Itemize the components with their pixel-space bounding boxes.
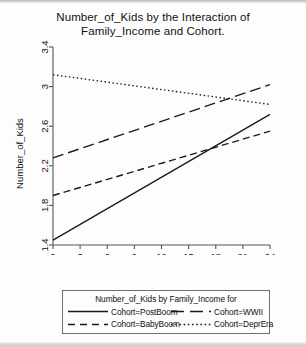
legend-label: Cohort=WWII (214, 307, 263, 317)
legend-title: Number_of_Kids by Family_Income for (63, 294, 269, 304)
y-tick-group: 1.41.82.22.633.4 (39, 40, 53, 251)
x-tick-label: 3 (77, 251, 82, 255)
x-tick-label: 6 (105, 251, 110, 255)
series-line-wwii (53, 85, 270, 158)
legend-label: Cohort=DeprEra (214, 319, 273, 329)
y-tick-label: 3 (39, 84, 50, 89)
y-axis-label: Number_of_Kids (14, 99, 25, 209)
x-tick-label: 9 (132, 251, 137, 255)
legend-row: Cohort=PostBoom Cohort=WWII (63, 307, 269, 317)
legend-key-solid-icon (68, 307, 108, 316)
y-tick-label: 2.2 (39, 159, 50, 172)
legend-key-dashed-icon (68, 320, 108, 329)
x-tick-label: 0 (50, 251, 55, 255)
x-tick-label: 18 (210, 251, 221, 255)
chart-title: Number_of_Kids by the Interaction of Fam… (0, 10, 306, 38)
series-group (53, 75, 270, 240)
y-tick-label: 3.4 (39, 40, 50, 53)
legend-item-wwii[interactable]: Cohort=WWII (166, 307, 269, 317)
chart-canvas: 1.41.82.22.633.4 03691215182124 (0, 40, 306, 255)
x-tick-label: 24 (265, 251, 276, 255)
x-tick-label: 15 (183, 251, 194, 255)
legend-item-postboom[interactable]: Cohort=PostBoom (63, 307, 166, 317)
chart-title-line-1: Number_of_Kids by the Interaction of (56, 11, 249, 23)
plot-area: Number_of_Kids 1.41.82.22.633.4 03691215… (0, 40, 306, 255)
legend-item-babyboom[interactable]: Cohort=BabyBoom (63, 319, 166, 329)
window-bottom-edge (0, 342, 306, 346)
x-tick-label: 21 (238, 251, 249, 255)
series-line-deprera (53, 75, 270, 105)
y-tick-label: 1.8 (39, 199, 50, 212)
legend-row: Cohort=BabyBoom Cohort=DeprEra (63, 319, 269, 329)
x-tick-group: 03691215182124 (50, 245, 275, 255)
chart-title-line-2: Family_Income and Cohort. (0, 24, 306, 38)
y-tick-label: 1.4 (39, 238, 50, 251)
series-line-babyboom (53, 131, 270, 195)
chart-screenshot: Number_of_Kids by the Interaction of Fam… (0, 0, 306, 346)
series-line-postboom (53, 114, 270, 240)
legend-key-dotted-icon (171, 320, 211, 329)
y-tick-label: 2.6 (39, 120, 50, 133)
legend-item-deprera[interactable]: Cohort=DeprEra (166, 319, 269, 329)
legend: Number_of_Kids by Family_Income for Coho… (62, 290, 270, 334)
axes-group (53, 47, 270, 245)
legend-key-long-dash-icon (171, 307, 211, 316)
window-top-edge (0, 0, 306, 3)
x-tick-label: 12 (156, 251, 167, 255)
